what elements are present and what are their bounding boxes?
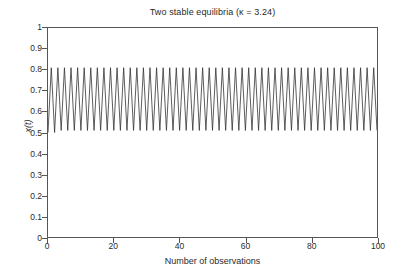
y-tick-label: 0.6 (16, 107, 42, 116)
x-tick-label: 0 (27, 242, 67, 251)
y-tick-label: 0.7 (16, 86, 42, 95)
series-line-xt (48, 28, 377, 237)
y-tick-label: 0.3 (16, 170, 42, 179)
x-axis-title: Number of observations (47, 256, 378, 266)
chart-title: Two stable equilibria (κ = 3.24) (47, 7, 378, 17)
y-tick-label: 0 (16, 234, 42, 243)
x-tick-label: 20 (93, 242, 133, 251)
y-tick-label: 0.5 (16, 128, 42, 137)
x-tick-label: 100 (358, 242, 398, 251)
y-tick-label: 0.4 (16, 149, 42, 158)
y-tick-label: 1 (16, 23, 42, 32)
y-tick-label: 0.1 (16, 213, 42, 222)
x-tick-label: 60 (226, 242, 266, 251)
x-tick-label: 40 (159, 242, 199, 251)
x-tick-label: 80 (292, 242, 332, 251)
plot-area (47, 27, 378, 238)
y-tick-label: 0.2 (16, 192, 42, 201)
y-tick-label: 0.9 (16, 44, 42, 53)
y-tick-label: 0.8 (16, 65, 42, 74)
chart-figure: Two stable equilibria (κ = 3.24) x(t) 00… (0, 0, 403, 279)
